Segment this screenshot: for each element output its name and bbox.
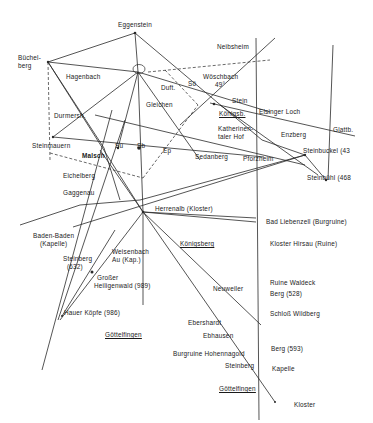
label-kloster: Kloster — [294, 401, 315, 409]
label-herrenalb: Herrenalb (Kloster) — [155, 205, 213, 213]
label-katherinentaler-2: taler Hof — [218, 133, 244, 141]
label-so: Sö — [188, 80, 196, 88]
label-durmersh: Durmersh. — [54, 112, 86, 120]
label-weisenbach-2: Au (Kap.) — [112, 256, 141, 264]
label-berg-528: Berg (528) — [270, 290, 302, 298]
label-sedanberg: Sedanberg — [195, 153, 228, 161]
label-ruine-waldeck: Ruine Waldeck — [270, 279, 315, 287]
label-woeschbach: Wöschbach — [203, 73, 238, 81]
label-katherinentaler: Katherinen- — [218, 125, 253, 133]
label-goettelfingen-right: Göttelfingen — [219, 385, 256, 393]
label-buechelberg-2: berg — [18, 62, 32, 70]
label-kapelle: Kapelle — [272, 365, 295, 373]
label-baden-baden-2: (Kapelle) — [40, 240, 67, 248]
label-steinberg-small: Steinberg — [225, 362, 254, 370]
triangulation-diagram: Eggenstein Büchel- berg Hagenbach Neibsh… — [0, 0, 373, 423]
label-baden-baden: Baden-Baden — [33, 232, 74, 240]
label-bad-liebenzell: Bad Liebenzell (Burgruine) — [266, 218, 347, 226]
label-steinberg: Steinberg — [63, 255, 92, 263]
label-koenigsb: Königsb. — [219, 110, 245, 118]
label-stein: Stein — [232, 97, 248, 105]
label-ep: Ep — [163, 147, 171, 155]
label-hauer-koepfe: Hauer Köpfe (986) — [64, 309, 120, 317]
label-su: Su — [115, 142, 123, 150]
label-koenigsberg: Königsberg — [180, 240, 214, 248]
label-duft: Duft. — [161, 84, 176, 92]
label-eichelberg: Eichelberg — [63, 172, 95, 180]
label-neuweiler: Neuweiler — [213, 285, 243, 293]
label-buechelberg: Büchel- — [18, 54, 41, 62]
label-grosser: Großer — [97, 274, 118, 282]
label-elsinger-loch: Elsinger Loch — [259, 108, 300, 116]
label-enzberg: Enzberg — [281, 131, 306, 139]
label-hagenbach: Hagenbach — [66, 73, 101, 81]
label-steinbuehl: Steinbühl (468 — [307, 174, 351, 182]
label-berg-593: Berg (593) — [271, 345, 303, 353]
label-ebershardt: Ebershardt — [188, 319, 221, 327]
label-gaggenau: Gaggenau — [63, 189, 94, 197]
label-weisenbach: Weisenbach — [112, 248, 149, 256]
label-woeschbach-2: 49° — [215, 81, 225, 89]
label-steinbuckel: Steinbuckel (43 — [303, 147, 350, 155]
label-pforzheim: Pforzheim — [243, 155, 274, 163]
label-glattb: Glattb. — [333, 126, 353, 134]
label-gleichen: Gleichen — [146, 101, 173, 109]
label-steinmauern: Steinmauern — [32, 142, 70, 150]
label-ebhausen: Ebhausen — [203, 332, 233, 340]
label-malsch: Malsch — [82, 152, 105, 160]
label-sb: Sb — [137, 142, 145, 150]
label-kloster-hirsau: Kloster Hirsau (Ruine) — [270, 240, 337, 248]
label-schloss-wildberg: Schloß Wildberg — [270, 310, 320, 318]
label-goettelfingen-left: Göttelfingen — [105, 331, 142, 339]
label-heiligenwald: Heiligenwald (989) — [94, 282, 151, 290]
label-steinberg-2: (632) — [67, 263, 83, 271]
label-burgruine-hohennagold: Burgruine Hohennagold — [173, 350, 245, 358]
label-neibsheim: Neibsheim — [217, 43, 249, 51]
label-eggenstein: Eggenstein — [118, 21, 152, 29]
